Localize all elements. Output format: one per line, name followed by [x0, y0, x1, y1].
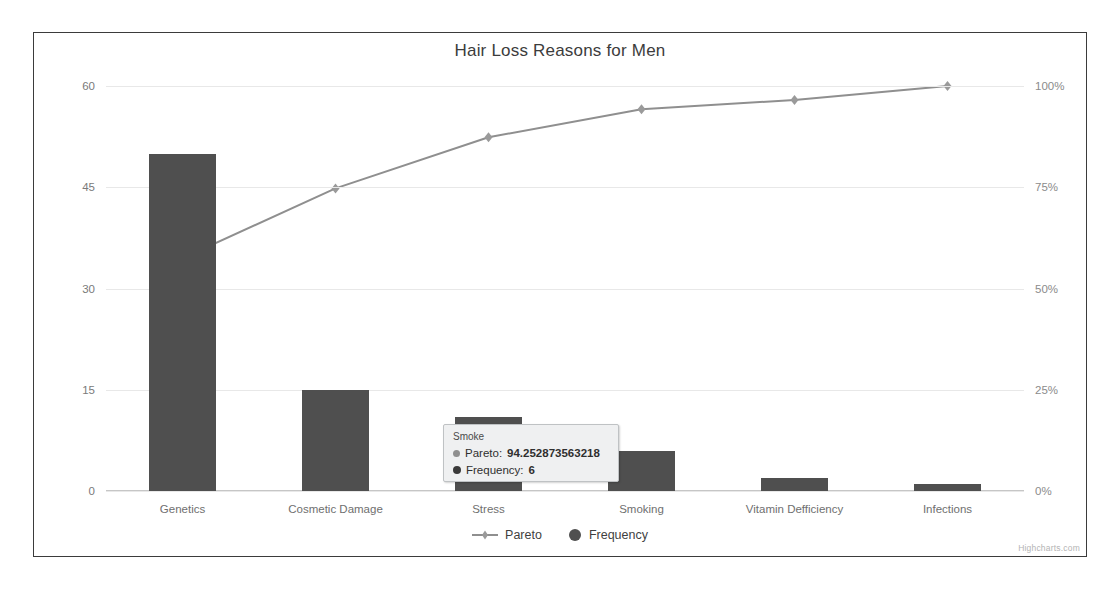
- pareto-point-2[interactable]: [485, 132, 493, 142]
- y-axis-tick-left: 60: [82, 80, 95, 92]
- bar-infections[interactable]: [914, 484, 981, 491]
- y-axis-tick-left: 30: [82, 283, 95, 295]
- y-axis-tick-right: 75%: [1035, 181, 1058, 193]
- y-axis-tick-left: 0: [89, 485, 95, 497]
- y-axis-tick-right: 0%: [1035, 485, 1052, 497]
- legend-label-pareto: Pareto: [505, 528, 542, 542]
- chart-screenshot: Hair Loss Reasons for Men 0153045600%25%…: [0, 0, 1118, 596]
- y-axis-tick-left: 15: [82, 384, 95, 396]
- x-axis-label-infections: Infections: [923, 503, 972, 515]
- tooltip-row-pareto: Pareto: 94.252873563218: [453, 445, 610, 461]
- chart-legend: Pareto Frequency: [34, 528, 1086, 542]
- bar-genetics[interactable]: [149, 154, 216, 492]
- x-axis-label-genetics: Genetics: [160, 503, 205, 515]
- x-axis-label-cosmetic-damage: Cosmetic Damage: [288, 503, 383, 515]
- highcharts-credits[interactable]: Highcharts.com: [1018, 543, 1080, 553]
- gridline: [106, 86, 1024, 87]
- x-axis-line: [106, 490, 1024, 491]
- legend-item-frequency[interactable]: Frequency: [568, 528, 648, 542]
- pareto-point-1[interactable]: [332, 183, 340, 193]
- bar-cosmetic-damage[interactable]: [302, 390, 369, 491]
- legend-label-frequency: Frequency: [589, 528, 648, 542]
- tooltip-series-value-pareto: 94.252873563218: [507, 445, 600, 461]
- x-axis-label-vitamin-defficiency: Vitamin Defficiency: [746, 503, 843, 515]
- tooltip-series-color-frequency: [453, 466, 461, 474]
- chart-tooltip: Smoke Pareto: 94.252873563218 Frequency:…: [443, 424, 619, 482]
- tooltip-row-frequency: Frequency: 6: [453, 462, 610, 478]
- frequency-legend-icon: [568, 528, 582, 542]
- y-axis-tick-right: 50%: [1035, 283, 1058, 295]
- tooltip-series-name-pareto: Pareto:: [465, 445, 502, 461]
- gridline: [106, 390, 1024, 391]
- gridline: [106, 187, 1024, 188]
- y-axis-tick-left: 45: [82, 181, 95, 193]
- gridline: [106, 491, 1024, 492]
- x-axis-label-stress: Stress: [472, 503, 505, 515]
- x-axis-label-smoking: Smoking: [619, 503, 664, 515]
- pareto-point-4[interactable]: [791, 95, 799, 105]
- pareto-legend-icon: [472, 529, 498, 541]
- pareto-point-3[interactable]: [638, 104, 646, 114]
- y-axis-tick-right: 25%: [1035, 384, 1058, 396]
- y-axis-tick-right: 100%: [1035, 80, 1064, 92]
- tooltip-series-name-frequency: Frequency:: [466, 462, 524, 478]
- tooltip-series-value-frequency: 6: [529, 462, 535, 478]
- gridline: [106, 289, 1024, 290]
- tooltip-series-color-pareto: [453, 450, 460, 457]
- chart-title: Hair Loss Reasons for Men: [34, 41, 1086, 61]
- bar-vitamin-defficiency[interactable]: [761, 478, 828, 492]
- tooltip-header: Smoke: [453, 430, 610, 444]
- legend-item-pareto[interactable]: Pareto: [472, 528, 542, 542]
